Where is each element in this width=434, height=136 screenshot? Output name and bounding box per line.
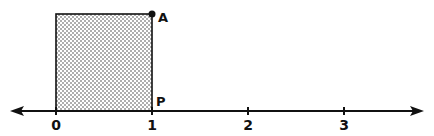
tick-label-3: 3 <box>339 117 349 133</box>
point-p-label: P <box>156 94 166 109</box>
tick-label-2: 2 <box>243 117 253 133</box>
point-p: P <box>156 94 166 109</box>
tick-label-0: 0 <box>51 117 61 133</box>
unit-square <box>56 14 152 111</box>
number-line-diagram: 0 1 2 3 A P <box>0 0 434 136</box>
point-a-dot-icon <box>149 11 156 18</box>
tick-label-1: 1 <box>147 117 157 133</box>
point-a-label: A <box>158 10 168 25</box>
